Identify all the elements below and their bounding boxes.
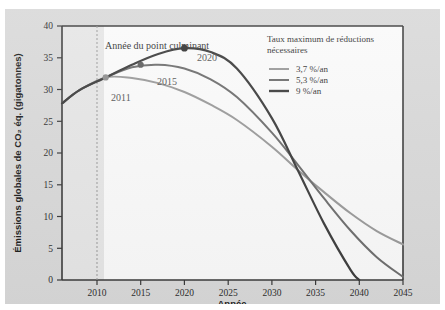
figure-panel: 0 5 10 15 20 25 30 35 40: [5, 9, 440, 304]
peak-marker-2020: [181, 45, 188, 52]
x-tick-label: 2025: [219, 288, 238, 298]
y-axis-title: Émissions globales de CO₂ éq. (gigatonne…: [12, 53, 23, 253]
peak-marker-2011: [103, 74, 109, 80]
y-tick-label: 20: [44, 148, 54, 158]
peak-label-2020: 2020: [197, 52, 217, 63]
legend-label-3-7: 3,7 %/an: [296, 64, 328, 74]
legend-label-5-3: 5,3 %/an: [296, 75, 328, 85]
y-tick-label: 15: [44, 180, 54, 190]
x-tick-label: 2020: [175, 288, 194, 298]
x-axis-ticks: 2010 2015 2020 2025 2030 2035 2040 2045: [88, 280, 413, 298]
y-tick-label: 25: [44, 117, 54, 127]
peak-label-2011: 2011: [111, 92, 131, 103]
legend-title-line2: nécessaires: [267, 45, 308, 55]
y-tick-label: 0: [48, 275, 53, 285]
y-tick-label: 5: [48, 244, 53, 254]
x-tick-label: 2015: [131, 288, 150, 298]
y-tick-label: 35: [44, 53, 54, 63]
x-axis-title: Année: [217, 298, 246, 304]
peak-label-2015: 2015: [157, 76, 177, 87]
y-tick-label: 10: [44, 212, 54, 222]
x-tick-label: 2035: [306, 288, 325, 298]
pre-2010-shaded-region: [62, 26, 104, 280]
y-axis-ticks: 0 5 10 15 20 25 30 35 40: [44, 21, 63, 285]
x-tick-label: 2045: [394, 288, 413, 298]
chart-container: 0 5 10 15 20 25 30 35 40: [5, 9, 440, 304]
y-tick-label: 40: [44, 21, 54, 31]
legend-title-line1: Taux maximum de réductions: [267, 34, 375, 44]
x-tick-label: 2040: [350, 288, 369, 298]
y-tick-label: 30: [44, 85, 54, 95]
peak-marker-2015: [138, 62, 144, 68]
emissions-pathways-chart: 0 5 10 15 20 25 30 35 40: [5, 9, 440, 304]
legend-label-9: 9 %/an: [296, 86, 322, 96]
x-tick-label: 2010: [88, 288, 107, 298]
x-tick-label: 2030: [262, 288, 281, 298]
